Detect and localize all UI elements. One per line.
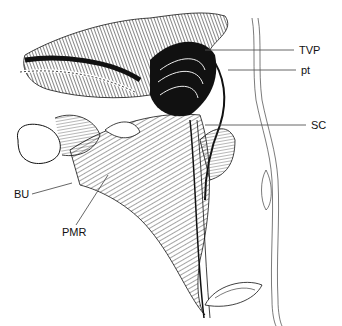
label-text-pmr: PMR <box>62 226 87 238</box>
label-pt: pt <box>228 64 310 76</box>
anatomical-figure: TVP pt SC BU PMR <box>0 0 342 326</box>
label-text-bu: BU <box>14 188 29 200</box>
pharyngeal-muscle-fan <box>70 114 210 318</box>
leader-line-bu <box>32 183 72 194</box>
label-text-tvp: TVP <box>299 44 320 56</box>
label-text-pt: pt <box>301 64 310 76</box>
label-bu: BU <box>14 183 72 200</box>
label-tvp: TVP <box>205 44 320 56</box>
label-text-sc: SC <box>311 119 326 131</box>
